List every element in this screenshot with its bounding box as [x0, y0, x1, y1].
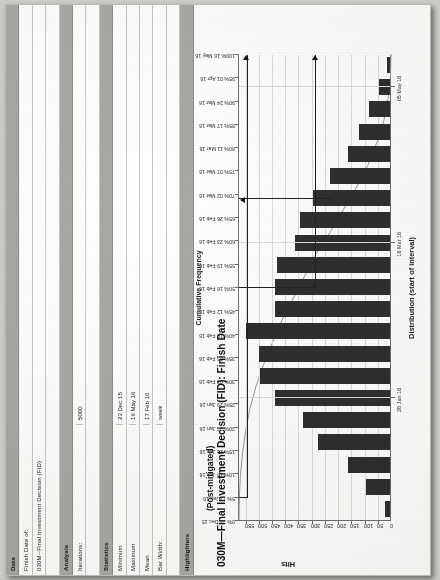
cumulative-axis-tick-label: 40% 10 Feb 16 — [199, 333, 235, 339]
row-label-mean: Mean — [143, 425, 150, 575]
cumulative-axis-tick-label: 50% 16 Feb 16 — [199, 286, 235, 292]
y-axis-title: Hits — [281, 560, 295, 569]
table-row: Minimum 23 Dec 15 — [113, 5, 126, 575]
cumulative-axis-tick-label: 5% 11 Jan 16 — [203, 496, 235, 502]
row-label-bar-width: Bar Width: — [156, 425, 163, 575]
histogram-bar — [366, 479, 390, 495]
x-axis-tick-label: 16 Mar 16 — [396, 232, 402, 257]
highlighter-vline-p50 — [239, 287, 315, 288]
row-value-mean: 17 Feb 16 — [143, 313, 150, 425]
cumulative-axis-tick-label: 65% 26 Feb 16 — [199, 216, 235, 222]
cumulative-axis-tick-label: 95% 01 Apr 16 — [200, 76, 235, 82]
table-section-data: Data — [6, 5, 19, 575]
highlighter-marker-p95 — [243, 55, 249, 60]
histogram-bar — [277, 257, 390, 273]
cumulative-axis-tick-label: 55% 19 Feb 16 — [199, 263, 235, 269]
page-content-rotated: Data Finish Date of: 030M--Final Investm… — [6, 5, 430, 575]
row-label-finish-date-of: Finish Date of: — [22, 425, 29, 575]
x-axis-tick — [391, 86, 395, 87]
table-row: Bar Width: week — [153, 5, 166, 575]
highlighter-marker-p50 — [312, 55, 318, 60]
cumulative-axis-tick-label: 70% 02 Mar 16 — [199, 193, 235, 199]
table-section-statistics: Statistics — [100, 5, 113, 575]
histogram-bar — [359, 124, 390, 140]
cumulative-axis-tick-label: 45% 12 Feb 16 — [199, 309, 235, 315]
histogram-chart: (Post-mitigated) 030M—Final Investment D… — [197, 5, 430, 575]
cumulative-axis-tick-label: 80% 11 Mar 16 — [199, 146, 235, 152]
histogram-bar — [348, 146, 390, 162]
section-header-analysis: Analysis — [62, 425, 69, 575]
highlighter-line-p95 — [247, 55, 248, 498]
row-label-activity: 030M--Final Investment Decision (FID) — [35, 425, 42, 575]
highlighter-vline-p95 — [239, 497, 247, 498]
row-label-maximum: Maximum — [129, 425, 136, 575]
cumulative-axis-tick-label: 35% 05 Feb 16 — [199, 356, 235, 362]
highlighter-line-p50 — [315, 55, 316, 288]
table-row-spacer — [46, 5, 59, 575]
histogram-bar — [369, 102, 390, 118]
row-value-bar-width: week — [156, 313, 163, 425]
scanned-page: Data Finish Date of: 030M--Final Investm… — [5, 4, 431, 576]
table-row-spacer — [167, 5, 180, 575]
row-value-iterations: 5000 — [76, 313, 83, 425]
x-axis-title: Distribution (start of interval) — [407, 55, 416, 521]
histogram-bar — [295, 235, 390, 251]
histogram-bar — [246, 323, 390, 339]
histogram-bar — [330, 168, 390, 184]
section-header-data: Data — [9, 425, 16, 575]
table-row: Finish Date of: — [19, 5, 32, 575]
cumulative-axis-tick-label: 15% 21 Jan 16 — [200, 449, 235, 455]
histogram-bar — [259, 346, 390, 362]
cumulative-axis-tick-label: 25% 29 Jan 16 — [200, 403, 235, 409]
row-label-minimum: Minimum — [116, 425, 123, 575]
highlighter-line-deterministic — [239, 198, 333, 199]
histogram-bar — [303, 412, 390, 428]
cumulative-axis-tick-label: 60% 23 Feb 16 — [199, 239, 235, 245]
histogram-bar — [275, 390, 390, 406]
table-section-analysis: Analysis — [60, 5, 73, 575]
histogram-bar — [385, 501, 390, 517]
histogram-bar — [275, 301, 390, 317]
cumulative-axis-tick-label: 75% 07 Mar 16 — [199, 170, 235, 176]
cumulative-axis-tick-label: 85% 17 Mar 16 — [199, 123, 235, 129]
cumulative-axis-tick-label: 90% 24 Mar 16 — [199, 100, 235, 106]
x-axis-tick — [391, 397, 395, 398]
y-axis-tick-label: 0 — [390, 523, 410, 529]
table-row: Maximum 16 May 16 — [127, 5, 140, 575]
cumulative-axis-tick-label: 100% 16 May 16 — [195, 53, 235, 59]
histogram-bar — [300, 212, 390, 228]
histogram-bar — [348, 457, 390, 473]
highlighter-marker-deterministic — [240, 197, 245, 203]
section-header-highlighters: Highlighters — [183, 425, 190, 575]
table-row: Iterations: 5000 — [73, 5, 86, 575]
table-row-spacer — [86, 5, 99, 575]
y-axis-tick-label: 550 — [245, 523, 265, 529]
x-gridline — [239, 397, 390, 398]
table-row: Mean 17 Feb 16 — [140, 5, 153, 575]
table-row: 030M--Final Investment Decision (FID) — [33, 5, 46, 575]
x-axis-tick — [391, 242, 395, 243]
cumulative-axis-tick-label: 20% 27 Jan 16 — [200, 426, 235, 432]
table-section-highlighters: Highlighters — [180, 5, 193, 575]
cumulative-axis-tick-label: 0% 23 Dec 15 — [202, 519, 235, 525]
x-axis-tick-label: 05 May 16 — [396, 76, 402, 102]
row-value-maximum: 16 May 16 — [129, 313, 136, 425]
cumulative-axis-tick-label: 30% 03 Feb 16 — [199, 379, 235, 385]
histogram-bar — [318, 434, 390, 450]
row-label-iterations: Iterations: — [76, 425, 83, 575]
cumulative-axis-tick-label: 10% 15 Jan 16 — [200, 472, 235, 478]
histogram-bar — [260, 368, 390, 384]
x-axis-tick-label: 26 Jan 16 — [396, 388, 402, 412]
row-value-minimum: 23 Dec 15 — [116, 313, 123, 425]
histogram-bar — [379, 79, 390, 95]
section-header-statistics: Statistics — [102, 425, 109, 575]
histogram-bar — [387, 57, 390, 73]
